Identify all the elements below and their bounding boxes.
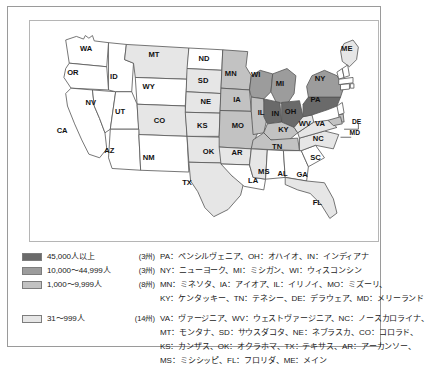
state-label-md: MD — [350, 129, 361, 136]
legend-range-label: 1,000〜9,999人 — [47, 278, 131, 292]
state-label-ny: NY — [315, 74, 326, 83]
legend-state-list: MS：ミシシッピ、FL：フロリダ、ME：メイン — [160, 354, 327, 368]
state-label-wi: WI — [251, 70, 260, 79]
legend-indent-spacer — [22, 354, 160, 368]
state-ri — [350, 84, 354, 88]
legend-state-list: KS：カンザス、OK：オクラホマ、TX：テキサス、AR：アーカンソー、 — [160, 340, 416, 354]
legend-range-label: 10,000〜44,999人 — [47, 264, 131, 278]
legend-state-count: (8州) — [131, 278, 155, 292]
legend: 45,000人以上(3州)PA：ペンシルヴェニア、OH：オハイオ、IN：インディ… — [16, 245, 388, 345]
legend-state-count: (3州) — [131, 264, 155, 278]
state-label-in: IN — [272, 109, 280, 118]
state-label-nv: NV — [85, 98, 96, 107]
state-label-sc: SC — [310, 153, 321, 162]
legend-state-list: PA：ペンシルヴェニア、OH：オハイオ、IN：インディアナ — [160, 250, 369, 264]
legend-state-count: (14州) — [131, 312, 155, 326]
state-label-mn: MN — [225, 69, 237, 78]
figure-outer-frame: WAORIDMTNDSDNEWYNVUTCAAZCONMKSOKTXMNIAMO… — [7, 6, 381, 347]
legend-state-list: VA：ヴァージニア、WV：ウェストヴァージニア、NC：ノースカロライナ、 — [160, 312, 429, 326]
legend-row-continuation: KY：ケンタッキー、TN：テネシー、DE：デラウェア、MD：メリーランド — [22, 292, 429, 306]
state-label-pa: PA — [311, 95, 321, 104]
state-label-va: VA — [315, 119, 325, 128]
state-label-or: OR — [67, 68, 79, 77]
legend-range-label: 45,000人以上 — [47, 250, 131, 264]
legend-row-continuation: MS：ミシシッピ、FL：フロリダ、ME：メイン — [22, 354, 429, 368]
state-label-fl: FL — [313, 198, 323, 207]
state-label-oh: OH — [285, 107, 296, 116]
state-label-ut: UT — [115, 107, 125, 116]
state-label-ks: KS — [197, 121, 208, 130]
state-label-wy: WY — [143, 82, 155, 91]
legend-indent-spacer — [22, 326, 160, 340]
state-label-tx: TX — [182, 178, 192, 187]
state-label-la: LA — [248, 176, 259, 185]
state-label-mo: MO — [232, 121, 244, 130]
state-label-ms: MS — [258, 167, 269, 176]
legend-row: 10,000〜44,999人(3州)NY：ニューヨーク、MI：ミシガン、WI：ウ… — [22, 264, 429, 278]
state-label-nd: ND — [199, 54, 210, 63]
legend-state-list: KY：ケンタッキー、TN：テネシー、DE：デラウェア、MD：メリーランド — [160, 292, 424, 306]
state-label-nm: NM — [143, 153, 155, 162]
state-ct — [341, 84, 350, 90]
state-pa — [303, 97, 340, 117]
state-label-mt: MT — [149, 50, 160, 59]
legend-swatch — [22, 267, 42, 275]
state-label-tn: TN — [272, 142, 282, 151]
state-label-ia: IA — [233, 95, 241, 104]
legend-indent-spacer — [22, 292, 160, 306]
legend-row: 45,000人以上(3州)PA：ペンシルヴェニア、OH：オハイオ、IN：インディ… — [22, 250, 429, 264]
state-label-sd: SD — [198, 76, 209, 85]
state-label-al: AL — [277, 169, 287, 178]
map-panel: WAORIDMTNDSDNEWYNVUTCAAZCONMKSOKTXMNIAMO… — [29, 20, 379, 242]
state-label-ky: KY — [278, 125, 289, 134]
state-label-wa: WA — [80, 44, 93, 53]
state-label-az: AZ — [104, 146, 114, 155]
legend-state-list: MN：ミネソタ、IA：アイオア、IL：イリノイ、MO：ミズーリ、 — [160, 278, 387, 292]
legend-range-label: 31〜999人 — [47, 312, 131, 326]
us-choropleth-map: WAORIDMTNDSDNEWYNVUTCAAZCONMKSOKTXMNIAMO… — [30, 21, 378, 241]
legend-swatch — [22, 253, 42, 261]
legend-state-list: MT：モンタナ、SD：サウスダコタ、NE：ネブラスカ、CO：コロラド、 — [160, 326, 418, 340]
legend-indent-spacer — [22, 340, 160, 354]
legend-row-continuation: MT：モンタナ、SD：サウスダコタ、NE：ネブラスカ、CO：コロラド、 — [22, 326, 429, 340]
legend-state-count: (3州) — [131, 250, 155, 264]
state-label-co: CO — [154, 116, 165, 125]
state-label-mi: MI — [276, 79, 284, 88]
legend-row-continuation: KS：カンザス、OK：オクラホマ、TX：テキサス、AR：アーカンソー、 — [22, 340, 429, 354]
legend-row: 31〜999人(14州)VA：ヴァージニア、WV：ウェストヴァージニア、NC：ノ… — [22, 312, 429, 326]
state-label-ar: AR — [232, 148, 243, 157]
legend-swatch — [22, 281, 42, 289]
legend-swatch — [22, 315, 42, 323]
state-label-wv: WV — [299, 119, 311, 128]
state-label-id: ID — [110, 72, 118, 81]
legend-state-list: NY：ニューヨーク、MI：ミシガン、WI：ウィスコンシン — [160, 264, 362, 278]
state-label-nc: NC — [313, 134, 324, 143]
state-label-ok: OK — [203, 147, 215, 156]
legend-rows: 45,000人以上(3州)PA：ペンシルヴェニア、OH：オハイオ、IN：インディ… — [22, 250, 429, 368]
state-fl — [285, 177, 337, 218]
state-label-ne: NE — [201, 97, 212, 106]
state-label-de: DE — [352, 118, 362, 125]
state-label-il: IL — [258, 108, 265, 117]
state-label-me: ME — [341, 44, 352, 53]
state-label-ca: CA — [57, 126, 68, 135]
state-nh — [342, 65, 349, 77]
state-label-ga: GA — [296, 170, 308, 179]
legend-row: 1,000〜9,999人(8州)MN：ミネソタ、IA：アイオア、IL：イリノイ、… — [22, 278, 429, 292]
